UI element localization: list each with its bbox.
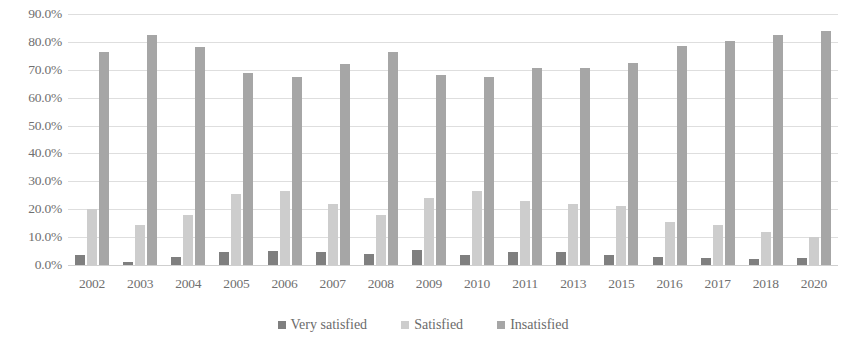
legend-label: Very satisfied [291,318,368,332]
bar[interactable] [580,68,590,265]
bar[interactable] [99,52,109,265]
bar[interactable] [87,209,97,265]
bar[interactable] [135,225,145,265]
bar[interactable] [460,255,470,265]
legend-item[interactable]: Very satisfied [278,318,368,332]
x-axis-tick-label: 2015 [597,272,645,296]
bar[interactable] [376,215,386,265]
bar[interactable] [364,254,374,265]
x-axis-tick-label: 2018 [742,272,790,296]
plot-area [68,14,838,265]
bar-group [357,14,405,265]
y-axis-tick-label: 0.0% [0,258,62,272]
bar[interactable] [268,251,278,265]
bar-group [790,14,838,265]
bar[interactable] [568,204,578,265]
bar[interactable] [616,206,626,265]
bar-group [742,14,790,265]
bar[interactable] [508,252,518,265]
bar[interactable] [761,232,771,265]
x-axis-tick-label: 2009 [405,272,453,296]
bar[interactable] [280,191,290,265]
bar[interactable] [677,46,687,265]
x-axis-tick-label: 2004 [164,272,212,296]
y-axis-tick-label: 20.0% [0,202,62,216]
legend-item[interactable]: Insatisfied [497,318,568,332]
bar[interactable] [532,68,542,265]
bar[interactable] [628,63,638,265]
bar[interactable] [123,262,133,265]
bar-group [164,14,212,265]
bar[interactable] [316,252,326,265]
x-axis-tick-label: 2017 [694,272,742,296]
x-axis-tick-label: 2016 [646,272,694,296]
x-axis-tick-label: 2007 [309,272,357,296]
bar-group [212,14,260,265]
y-axis-tick-label: 30.0% [0,175,62,189]
bar[interactable] [231,194,241,265]
bar[interactable] [243,73,253,265]
legend-label: Satisfied [414,318,463,332]
bar[interactable] [665,222,675,265]
y-axis-tick-label: 10.0% [0,230,62,244]
bar[interactable] [292,77,302,265]
bar-group [597,14,645,265]
bar[interactable] [195,47,205,265]
bar-group [501,14,549,265]
bar[interactable] [436,75,446,265]
bar-group [694,14,742,265]
bar-group [405,14,453,265]
bar[interactable] [556,252,566,265]
bar[interactable] [653,257,663,265]
x-axis-tick-label: 2020 [790,272,838,296]
bar[interactable] [183,215,193,265]
bar[interactable] [821,31,831,265]
bar[interactable] [809,237,819,265]
x-axis-tick-label: 2010 [453,272,501,296]
y-axis: 0.0%10.0%20.0%30.0%40.0%50.0%60.0%70.0%8… [0,0,62,280]
bar-groups [68,14,838,265]
chart-legend: Very satisfiedSatisfiedInsatisfied [0,312,846,338]
bar[interactable] [219,252,229,265]
legend-item[interactable]: Satisfied [401,318,463,332]
x-axis-tick-label: 2006 [261,272,309,296]
bar[interactable] [340,64,350,265]
bar[interactable] [713,225,723,265]
bar-group [453,14,501,265]
legend-label: Insatisfied [510,318,568,332]
bar-group [646,14,694,265]
x-axis-tick-label: 2011 [501,272,549,296]
bar[interactable] [328,204,338,265]
bar[interactable] [484,77,494,265]
bar[interactable] [147,35,157,265]
bar[interactable] [797,258,807,265]
axis-baseline [68,265,838,266]
legend-swatch-icon [497,321,505,329]
bar[interactable] [388,52,398,265]
bar[interactable] [520,201,530,265]
bar[interactable] [472,191,482,265]
x-axis-tick-label: 2002 [68,272,116,296]
bar-group [309,14,357,265]
bar-group [116,14,164,265]
x-axis: 2002200320042005200620072008200920102011… [68,272,838,296]
x-axis-tick-label: 2008 [357,272,405,296]
y-axis-tick-label: 50.0% [0,119,62,133]
bar[interactable] [412,250,422,265]
bar[interactable] [424,198,434,265]
y-axis-tick-label: 80.0% [0,35,62,49]
y-axis-tick-label: 60.0% [0,91,62,105]
bar[interactable] [171,257,181,265]
y-axis-tick-label: 70.0% [0,63,62,77]
bar[interactable] [725,41,735,266]
bar[interactable] [773,35,783,265]
bar-group [68,14,116,265]
x-axis-tick-label: 2005 [212,272,260,296]
bar[interactable] [604,255,614,265]
bar-group [549,14,597,265]
bar[interactable] [75,255,85,265]
bar[interactable] [701,258,711,265]
bar-group [261,14,309,265]
bar[interactable] [749,259,759,265]
satisfaction-bar-chart: 0.0%10.0%20.0%30.0%40.0%50.0%60.0%70.0%8… [0,0,846,341]
